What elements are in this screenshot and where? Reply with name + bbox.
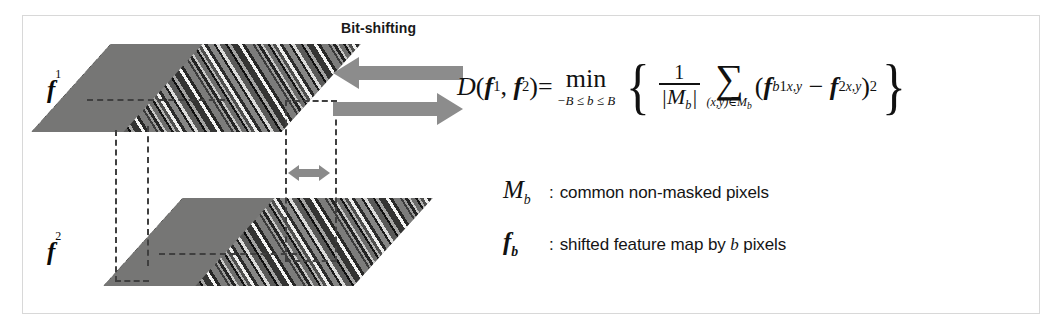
legend-colon-fb: : xyxy=(549,235,554,255)
formula-term-close: ) xyxy=(861,72,870,102)
formula-paren-open: ( xyxy=(476,72,485,102)
legend-row-fb: fb : shifted feature map by b pixels xyxy=(503,228,786,260)
formula-fraction-denominator: |Mb| xyxy=(659,85,700,112)
bit-shifting-label: Bit-shifting xyxy=(341,20,416,36)
formula-paren-close: ) xyxy=(529,72,538,102)
legend-description-fb: shifted feature map by b pixels xyxy=(560,235,787,255)
formula-term-f2-xy: x,y xyxy=(846,79,861,95)
dashed-connector-left-a xyxy=(115,130,117,282)
legend-description-fb-pre: shifted feature map by xyxy=(560,235,731,254)
formula-min-range: −B ≤ b ≤ B xyxy=(557,94,615,107)
diagram-panel: f1 f2 Bit-shifting xyxy=(23,16,453,315)
formula-brace-open: { xyxy=(626,62,650,112)
legend-symbol-f: fb xyxy=(503,228,549,260)
legend-description-fb-post: pixels xyxy=(739,235,787,254)
formula-term-f1-xy: x,y xyxy=(787,79,802,95)
formula-sum-index: (x,y)∈Mb xyxy=(707,96,752,111)
formula-f1-sup: 1 xyxy=(493,78,500,95)
formula-term-f1-sup: 1 xyxy=(779,78,786,95)
formula-sum-index-main: (x,y)∈M xyxy=(707,95,748,109)
distance-formula: D(f1, f2)= min −B ≤ b ≤ B { 1 |Mb| ∑ (x,… xyxy=(457,62,911,112)
figure-frame: f1 f2 Bit-shifting D(f1, f2)= min −B ≤ b… xyxy=(22,15,1040,314)
right-arrow-icon xyxy=(333,93,463,125)
legend-row-mb: Mb : common non-masked pixels xyxy=(503,176,769,208)
legend-symbol-M-sub: b xyxy=(524,192,531,207)
double-headed-shift-arrow xyxy=(288,164,330,182)
legend-colon-mb: : xyxy=(549,183,554,203)
formula-f1: f xyxy=(484,72,493,102)
formula-term-f1-sub: b xyxy=(772,78,779,95)
feature-map-upper-label: f1 xyxy=(47,76,61,104)
equation-panel: D(f1, f2)= min −B ≤ b ≤ B { 1 |Mb| ∑ (x,… xyxy=(447,16,1041,315)
dashed-connector-left-b xyxy=(147,126,149,266)
formula-brace-close: } xyxy=(882,62,906,112)
formula-D: D xyxy=(457,72,476,102)
formula-term-open: ( xyxy=(755,72,764,102)
left-arrow-icon xyxy=(333,57,463,89)
formula-fraction-numerator: 1 xyxy=(671,62,687,83)
formula-f2: f xyxy=(513,72,522,102)
legend-symbol-M: Mb xyxy=(503,176,549,208)
feature-map-lower xyxy=(103,198,432,286)
formula-denominator-close: | xyxy=(691,84,697,109)
dashed-patch-lower xyxy=(159,253,297,255)
formula-f2-sup: 2 xyxy=(522,78,529,95)
formula-sum-index-sub: b xyxy=(747,101,752,112)
formula-term-power: 2 xyxy=(870,78,877,95)
formula-min-label: min xyxy=(566,66,606,92)
dashed-connector-left-bottom xyxy=(115,280,149,282)
formula-comma: , xyxy=(500,72,507,102)
formula-fraction: 1 |Mb| xyxy=(659,62,700,112)
formula-summation: ∑ (x,y)∈Mb xyxy=(707,63,752,112)
formula-sigma-symbol: ∑ xyxy=(715,63,744,96)
formula-denominator-M: |M xyxy=(661,84,685,109)
formula-term-f2: f xyxy=(830,72,839,102)
feature-map-lower-label: f2 xyxy=(47,238,61,266)
legend-description-fb-italic: b xyxy=(730,235,738,254)
legend-description-mb: common non-masked pixels xyxy=(560,183,769,203)
formula-minus: − xyxy=(809,72,824,102)
dashed-patch-upper xyxy=(87,99,225,101)
formula-equals: = xyxy=(538,72,553,102)
legend-symbol-M-main: M xyxy=(503,176,524,203)
legend-symbol-f-sub: b xyxy=(511,244,518,259)
formula-min-operator: min −B ≤ b ≤ B xyxy=(557,66,615,107)
formula-term-f2-sup: 2 xyxy=(838,78,845,95)
formula-term-f1: f xyxy=(764,72,773,102)
